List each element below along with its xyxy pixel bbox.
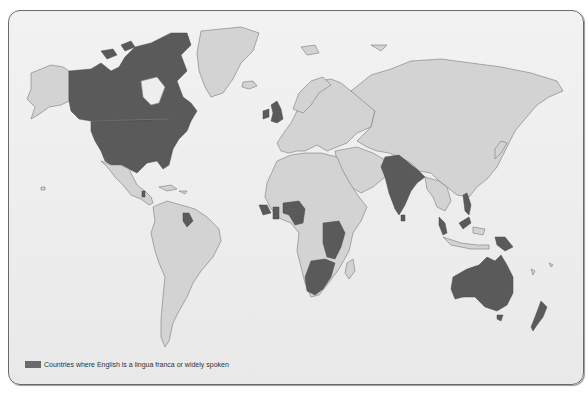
region-southern-africa	[305, 259, 335, 295]
region-indonesia	[443, 227, 489, 249]
region-papua-new-guinea	[495, 237, 513, 251]
legend-label: Countries where English is a lingua fran…	[44, 361, 229, 368]
region-malaysia	[439, 217, 471, 235]
region-caribbean	[159, 185, 187, 194]
legend-swatch	[25, 361, 41, 368]
region-hawaii	[41, 187, 45, 190]
region-svalbard	[301, 45, 387, 55]
region-ghana	[273, 207, 279, 219]
region-sri-lanka	[401, 215, 405, 221]
region-australia	[451, 255, 513, 311]
region-madagascar	[345, 259, 355, 279]
world-map	[9, 11, 583, 384]
map-frame: Countries where English is a lingua fran…	[8, 10, 584, 385]
region-alaska	[27, 65, 69, 119]
region-new-zealand	[531, 301, 547, 331]
region-united-kingdom	[271, 101, 283, 123]
legend: Countries where English is a lingua fran…	[25, 361, 229, 368]
region-pacific-islands	[531, 263, 553, 275]
region-tasmania	[497, 315, 503, 321]
region-iceland	[242, 81, 257, 89]
region-belize	[142, 191, 145, 197]
region-sierra-leone-liberia	[259, 205, 271, 215]
region-ireland	[263, 109, 269, 119]
